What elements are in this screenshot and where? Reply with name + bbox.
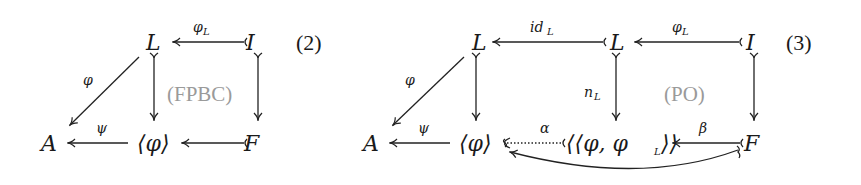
- arrow-L-to-phi-angle: [150, 53, 158, 120]
- arrow-L2-to-pair: n L: [584, 53, 620, 120]
- label-alpha: α: [540, 120, 550, 136]
- arrow-I-to-L: φ L: [173, 19, 247, 46]
- label-phi: φ: [83, 72, 93, 88]
- node-L: L: [145, 30, 161, 55]
- arrow-phi-angle-to-A: ψ: [68, 120, 128, 143]
- node-phi-angle: ⟨φ⟩: [137, 131, 170, 156]
- label-id: id: [530, 19, 543, 35]
- equation-number: (3): [786, 30, 812, 55]
- label-phi-sub: L: [202, 26, 210, 37]
- node-A: A: [361, 131, 379, 156]
- arrow-I-to-F: [254, 53, 262, 120]
- node-I: I: [745, 30, 756, 55]
- node-A: A: [39, 131, 57, 156]
- label-n-sub: L: [593, 91, 601, 102]
- arrow-pair-to-phi-angle: α: [504, 120, 566, 148]
- arrow-L1-to-A: φ: [393, 57, 464, 125]
- arrow-F-to-phi-angle: [182, 139, 247, 147]
- arrow-phi-angle-to-A: ψ: [390, 120, 450, 143]
- arrow-I-to-F: [750, 53, 758, 120]
- label-phi: φ: [405, 72, 415, 88]
- node-pair-sub: L: [653, 146, 661, 157]
- arrow-L2-to-L1: id L: [493, 19, 606, 46]
- arrow-F-to-pair: β: [673, 120, 743, 147]
- label-psi: ψ: [418, 120, 430, 136]
- node-pair: ⟨⟨φ, φ L ⟩⟩: [566, 131, 678, 157]
- node-phi-angle: ⟨φ⟩: [459, 131, 492, 156]
- equation-number: (2): [296, 30, 322, 55]
- arrow-L1-to-phi-angle: [472, 53, 480, 120]
- label-phi-sub: L: [681, 26, 689, 37]
- node-I: I: [245, 30, 256, 55]
- node-pair-text: ⟨⟨φ, φ: [566, 131, 629, 156]
- arrow-L-to-A: φ: [70, 57, 139, 125]
- node-L2: L: [609, 30, 625, 55]
- diagram-3: L L I A ⟨φ⟩ ⟨⟨φ, φ L ⟩⟩ F id L φ L φ: [361, 19, 812, 169]
- diagram-canvas: L I A ⟨φ⟩ F φ L φ ψ: [0, 0, 861, 185]
- label-beta: β: [698, 120, 707, 136]
- label-n: n: [584, 84, 593, 100]
- label-id-sub: L: [546, 26, 554, 37]
- region-label-fpbc: (FPBC): [167, 82, 232, 106]
- label-psi: ψ: [96, 120, 108, 136]
- arrow-I-to-L2: φ L: [635, 19, 742, 46]
- label-phi: φ: [193, 19, 203, 35]
- diagram-2: L I A ⟨φ⟩ F φ L φ ψ: [39, 19, 322, 156]
- region-label-po: (PO): [664, 82, 705, 106]
- node-F: F: [743, 131, 760, 156]
- label-phi: φ: [672, 19, 682, 35]
- node-L1: L: [471, 30, 487, 55]
